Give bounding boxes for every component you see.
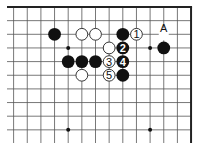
black-stone bbox=[48, 28, 61, 41]
star-point-icon bbox=[148, 46, 152, 50]
white-stone bbox=[76, 28, 88, 40]
black-stone-move-4: 4 bbox=[116, 55, 129, 68]
black-stone bbox=[116, 28, 129, 41]
black-stone bbox=[62, 55, 75, 68]
move-number-label: 2 bbox=[120, 42, 126, 54]
black-stone bbox=[89, 55, 102, 68]
point-label-a: A bbox=[160, 22, 168, 34]
go-board-diagram: 12345 A bbox=[0, 0, 198, 149]
white-stone-move-3: 3 bbox=[103, 56, 115, 68]
move-number-label: 3 bbox=[106, 56, 112, 68]
white-stone bbox=[90, 28, 102, 40]
move-number-label: 1 bbox=[133, 28, 139, 40]
white-stone-move-5: 5 bbox=[103, 69, 115, 81]
star-point-icon bbox=[66, 128, 70, 132]
point-labels: A bbox=[159, 22, 169, 41]
white-stone-move-1: 1 bbox=[131, 28, 143, 40]
white-stone bbox=[103, 42, 115, 54]
black-stone bbox=[116, 69, 129, 82]
move-number-label: 5 bbox=[106, 69, 112, 81]
black-stone-move-2: 2 bbox=[116, 42, 129, 55]
black-stone bbox=[157, 42, 170, 55]
move-number-label: 4 bbox=[120, 56, 127, 68]
white-stone bbox=[76, 69, 88, 81]
star-point-icon bbox=[148, 128, 152, 132]
star-point-icon bbox=[66, 46, 70, 50]
black-stone bbox=[75, 55, 88, 68]
